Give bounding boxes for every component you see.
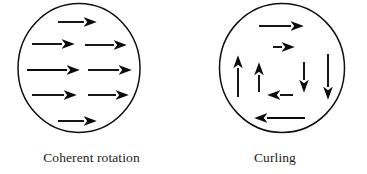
- figure-magnetization-reversal-modes: Coherent rotation: [0, 0, 367, 174]
- curling-diagram: [183, 0, 367, 140]
- panel-curling: Curling: [183, 0, 367, 174]
- caption-coherent-rotation: Coherent rotation: [0, 150, 183, 166]
- caption-curling: Curling: [183, 150, 367, 166]
- coherent-rotation-diagram: [0, 0, 183, 140]
- panel-coherent-rotation: Coherent rotation: [0, 0, 183, 174]
